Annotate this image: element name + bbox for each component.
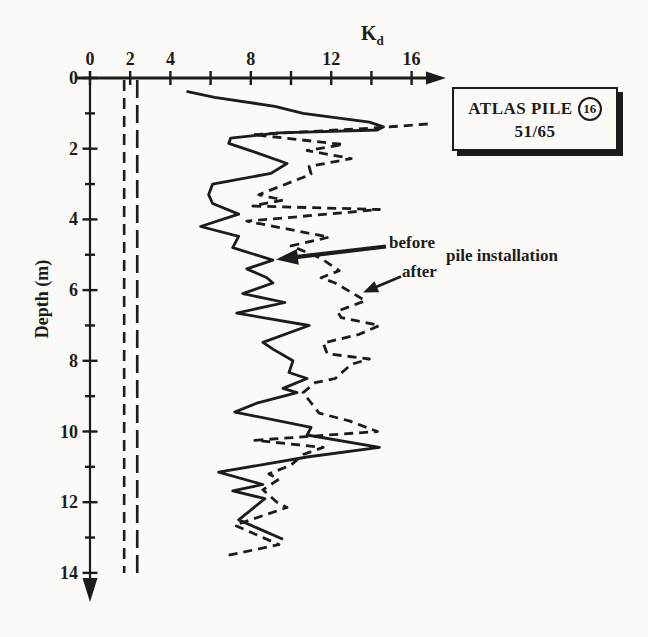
x-axis-title-main: K [361, 22, 377, 44]
svg-text:0: 0 [69, 68, 78, 88]
x-axis-title-sub: d [377, 33, 384, 48]
svg-text:10: 10 [60, 422, 78, 442]
y-axis-title: Depth (m) [32, 239, 54, 359]
svg-text:4: 4 [166, 49, 175, 69]
pile-number-badge: 16 [578, 97, 602, 121]
title-box-line2: 51/65 [514, 122, 555, 142]
svg-text:14: 14 [60, 563, 78, 583]
svg-text:12: 12 [322, 49, 340, 69]
legend-after-label: after [402, 262, 437, 282]
title-box: ATLAS PILE16 51/65 [452, 87, 618, 151]
x-axis-title: Kd [361, 22, 384, 49]
title-box-line1: ATLAS PILE16 [468, 97, 601, 121]
legend-group-label: pile installation [446, 246, 558, 266]
svg-text:2: 2 [69, 139, 78, 159]
svg-text:0: 0 [86, 49, 95, 69]
svg-text:16: 16 [403, 49, 421, 69]
svg-text:2: 2 [126, 49, 135, 69]
svg-text:8: 8 [69, 351, 78, 371]
legend-before-label: before [389, 233, 435, 253]
svg-text:6: 6 [69, 280, 78, 300]
svg-text:12: 12 [60, 492, 78, 512]
title-box-pile-name: ATLAS PILE [468, 99, 572, 119]
dmt-kd-depth-figure: 0248121602468101214 Kd Depth (m) before … [0, 0, 648, 637]
svg-text:8: 8 [246, 49, 255, 69]
svg-text:4: 4 [69, 209, 78, 229]
